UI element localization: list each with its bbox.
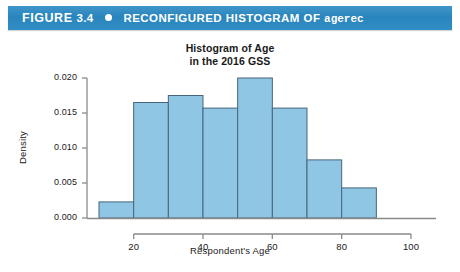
histogram-plot	[0, 32, 460, 272]
histogram-bar	[272, 108, 307, 218]
y-axis-tick-label: 0.000	[37, 212, 77, 222]
figure-variable-name: agerec	[324, 13, 364, 25]
y-axis-tick-label: 0.020	[37, 72, 77, 82]
histogram-bar	[238, 78, 273, 218]
y-axis-label: Density	[17, 108, 28, 188]
bullet-dot-icon	[105, 14, 112, 21]
figure-number: 3.4	[77, 12, 94, 24]
histogram-bar	[203, 108, 238, 218]
y-axis-tick-label: 0.010	[37, 142, 77, 152]
histogram-bar	[99, 202, 134, 218]
figure-caption-text: RECONFIGURED HISTOGRAM OF	[123, 12, 324, 24]
histogram-figure: Histogram of Age in the 2016 GSS 0.0000.…	[0, 32, 460, 272]
figure-banner-content: FIGURE 3.4 RECONFIGURED HISTOGRAM OF age…	[8, 11, 364, 25]
y-axis-tick-label: 0.005	[37, 177, 77, 187]
histogram-bars	[99, 78, 376, 218]
figure-caption: RECONFIGURED HISTOGRAM OF agerec	[123, 12, 363, 25]
y-axis-tick-label: 0.015	[37, 107, 77, 117]
figure-banner: FIGURE 3.4 RECONFIGURED HISTOGRAM OF age…	[8, 6, 452, 30]
histogram-bar	[342, 188, 377, 218]
histogram-bar	[307, 160, 342, 218]
histogram-bar	[134, 103, 169, 219]
x-axis-label: Respondent's Age	[0, 245, 460, 256]
figure-label: FIGURE	[22, 11, 73, 25]
histogram-bar	[168, 96, 203, 219]
